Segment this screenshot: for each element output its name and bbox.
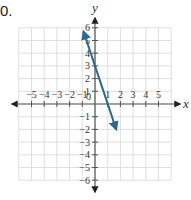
x-tick-label: 5 <box>156 89 161 100</box>
y-tick-label: −4 <box>79 149 90 160</box>
y-tick-label: −3 <box>79 137 90 148</box>
y-axis-label: y <box>90 0 98 15</box>
y-tick-label: 2 <box>85 73 90 84</box>
x-axis-label: x <box>182 96 189 111</box>
axes <box>12 18 180 192</box>
y-tick-label: 6 <box>85 22 90 33</box>
x-tick-label: 4 <box>143 89 148 100</box>
coordinate-plane-chart: xy−5−4−3−2−112345−6−5−4−3−2−11234560 <box>0 0 191 200</box>
y-tick-label: 3 <box>85 60 90 71</box>
x-tick-label: −4 <box>39 89 50 100</box>
y-tick-label: −1 <box>79 111 90 122</box>
y-tick-label: −6 <box>79 175 90 186</box>
x-tick-label: 2 <box>118 89 123 100</box>
origin-label: 0 <box>86 91 91 102</box>
x-tick-label: 3 <box>131 89 136 100</box>
x-tick-label: −3 <box>52 89 63 100</box>
y-tick-label: −5 <box>79 162 90 173</box>
y-tick-label: −2 <box>79 124 90 135</box>
x-tick-label: −5 <box>26 89 37 100</box>
x-tick-label: −2 <box>64 89 75 100</box>
